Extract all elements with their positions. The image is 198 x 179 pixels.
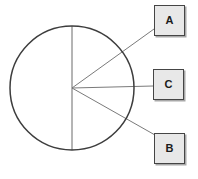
diagram-canvas: A C B [0,0,198,179]
label-box-c[interactable]: C [153,69,184,100]
label-box-a-text: A [166,15,174,26]
label-box-b[interactable]: B [154,133,185,164]
label-box-a[interactable]: A [154,5,185,36]
leader-line-to-a [72,29,154,88]
leader-line-to-c [72,86,153,88]
label-box-b-text: B [166,143,174,154]
leader-line-to-b [72,88,155,135]
label-box-c-text: C [165,79,173,90]
